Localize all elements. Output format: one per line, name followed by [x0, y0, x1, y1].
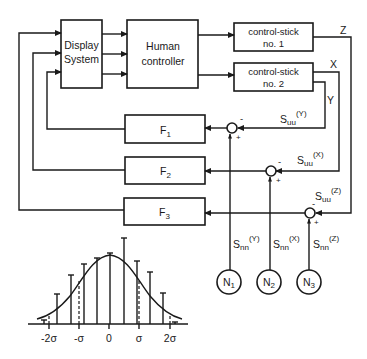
svg-text:Suu(Y): Suu(Y) — [280, 109, 307, 127]
svg-text:+: + — [236, 133, 241, 142]
filter-f2-block: F2 — [125, 157, 205, 184]
snn-z-label: Snn(Z) — [313, 234, 339, 252]
signal-x-label: X — [330, 58, 337, 70]
snn-x-label: Snn(X) — [273, 234, 300, 252]
control-stick-2-block: control-stick no. 2 — [234, 63, 313, 91]
suu-z-label: Suu(Z) — [315, 186, 341, 204]
svg-text:-: - — [240, 113, 243, 124]
filter-f3-block: F3 — [124, 198, 205, 225]
svg-text:Snn(X): Snn(X) — [273, 234, 300, 252]
control-stick-2-label-2: no. 2 — [263, 78, 284, 89]
display-system-block: Display System — [61, 20, 102, 88]
suu-y-label: Suu(Y) — [280, 109, 307, 127]
svg-text:+: + — [276, 176, 281, 185]
human-controller-block: Human controller — [127, 20, 198, 88]
human-controller-label-2: controller — [141, 55, 185, 67]
display-system-label-2: System — [64, 53, 99, 65]
tick-label-sigma: σ — [136, 332, 143, 344]
svg-text:Snn(Z): Snn(Z) — [313, 234, 339, 252]
histogram-bars — [41, 238, 178, 324]
svg-text:Suu(Z): Suu(Z) — [315, 186, 341, 204]
tick-label-zero: 0 — [106, 332, 112, 344]
snn-y-label: Snn(Y) — [233, 234, 260, 252]
svg-text:-: - — [312, 198, 315, 209]
human-controller-label-1: Human — [146, 40, 180, 52]
control-stick-1-block: control-stick no. 1 — [234, 23, 313, 51]
block-diagram: Display System Human controller control-… — [0, 0, 367, 359]
human-to-stick-arrows — [198, 35, 234, 75]
tick-label-minus-2sigma: -2σ — [41, 332, 57, 344]
svg-text:Suu(X): Suu(X) — [297, 150, 324, 168]
filter-f1-block: F1 — [125, 115, 205, 143]
svg-text:Snn(Y): Snn(Y) — [233, 234, 260, 252]
noise-source-n1: N1 — [217, 270, 241, 294]
control-stick-2-label-1: control-stick — [248, 66, 299, 77]
gaussian-histogram: -2σ -σ 0 σ 2σ — [28, 238, 188, 344]
svg-text:-: - — [278, 156, 281, 167]
control-stick-1-label-1: control-stick — [248, 26, 299, 37]
noise-source-n3: N3 — [297, 270, 321, 294]
svg-text:+: + — [314, 218, 319, 227]
control-stick-1-label-2: no. 1 — [263, 38, 284, 49]
display-system-label-1: Display — [64, 39, 99, 51]
noise-source-n2: N2 — [257, 270, 281, 294]
suu-x-label: Suu(X) — [297, 150, 324, 168]
signal-z-label: Z — [340, 24, 347, 36]
signal-y-label: Y — [327, 94, 334, 106]
tick-label-minus-sigma: -σ — [74, 332, 84, 344]
tick-label-2sigma: 2σ — [164, 332, 177, 344]
display-to-human-arrows — [102, 34, 127, 74]
